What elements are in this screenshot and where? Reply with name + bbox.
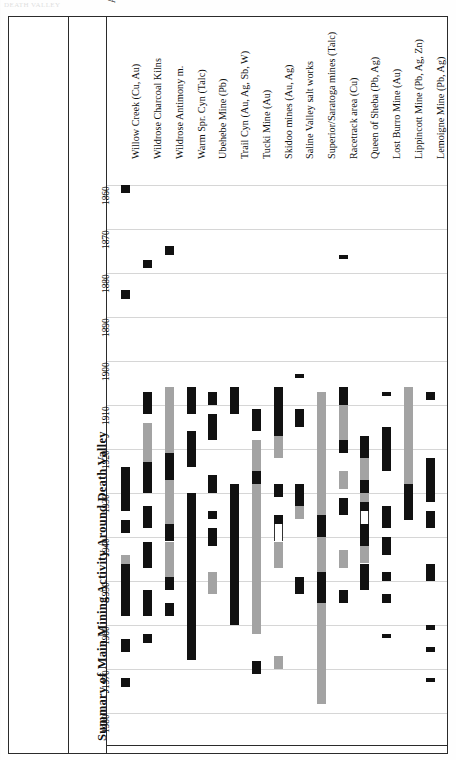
- activity-segment-spor: [252, 572, 261, 634]
- year-tick-1930: 1930: [101, 494, 111, 513]
- activity-segment-full: [121, 290, 130, 299]
- activity-segment-full: [143, 506, 152, 528]
- activity-segment-full: [187, 431, 196, 466]
- activity-segment-full: [121, 467, 130, 511]
- activity-segment-full: [143, 590, 152, 616]
- activity-segment-full: [230, 542, 239, 560]
- mine-label: Lost Burro Mine (Au): [392, 69, 402, 159]
- chart-panel: 1860187018801890190019101920193019401950…: [107, 17, 447, 753]
- activity-segment-full: [360, 564, 369, 590]
- activity-segment-spor: [165, 387, 174, 453]
- plot-area: 1860187018801890190019101920193019401950…: [107, 17, 447, 753]
- activity-segment-full: [295, 409, 304, 427]
- gridline-1860: [107, 185, 447, 186]
- activity-segment-spor: [252, 440, 261, 471]
- activity-segment-full: [360, 436, 369, 458]
- activity-segment-full: [208, 392, 217, 405]
- year-tick-1940: 1940: [101, 538, 111, 557]
- activity-segment-spor: [339, 550, 348, 568]
- activity-segment-full: [121, 639, 130, 652]
- activity-segment-disc: [208, 511, 217, 520]
- page-running-header: DEATH VALLEY: [4, 1, 334, 15]
- gridline-1950: [107, 581, 447, 582]
- gridline-1980: [107, 713, 447, 714]
- activity-segment-full: [121, 520, 130, 533]
- mine-label: Saline Valley salt works: [305, 61, 315, 159]
- key-panel: Key: DiscoveryAssessment workShut-down o…: [9, 17, 69, 753]
- activity-segment-spor: [317, 603, 326, 704]
- mine-label: Warm Spr. Cyn (Talc): [197, 69, 207, 159]
- mine-label: Superior/Saratoga mines (Talc): [327, 32, 337, 159]
- activity-segment-full: [339, 440, 348, 453]
- activity-segment-full: [143, 542, 152, 568]
- activity-segment-disc: [295, 374, 304, 378]
- activity-segment-spor: [208, 572, 217, 594]
- activity-segment-spor: [295, 506, 304, 519]
- activity-segment-full: [426, 511, 435, 529]
- page-root: DEATH VALLEY Key: DiscoveryAssessment wo…: [0, 0, 456, 760]
- abbreviation-row: Ag=SilverAu=GoldCu=CopperHg=MercuryPb=Le…: [107, 0, 117, 3]
- activity-segment-disc: [382, 392, 391, 396]
- activity-segment-spor: [274, 656, 283, 669]
- activity-segment-full: [208, 528, 217, 546]
- year-tick-1860: 1860: [101, 186, 111, 205]
- mine-label: Ubehebe Mine (Pb): [218, 79, 228, 159]
- activity-segment-full: [165, 246, 174, 255]
- mine-label: Tucki Mine (Au): [262, 90, 272, 159]
- activity-segment-full: [382, 594, 391, 603]
- mine-label: Skidoo mines (Au, Ag): [284, 64, 294, 159]
- year-tick-1980: 1980: [101, 715, 111, 734]
- mine-label: Lemoigne Mine (Pb, Ag): [436, 57, 446, 159]
- activity-segment-full: [382, 572, 391, 581]
- activity-segment-full: [339, 498, 348, 516]
- mine-label: Willow Creek (Cu, Au): [131, 64, 141, 159]
- activity-segment-full: [339, 590, 348, 603]
- activity-segment-full: [252, 661, 261, 674]
- activity-segment-full: [165, 577, 174, 590]
- activity-segment-full: [143, 634, 152, 643]
- activity-segment-full: [165, 603, 174, 616]
- year-tick-1950: 1950: [101, 582, 111, 601]
- activity-segment-full: [360, 524, 369, 546]
- activity-segment-full: [426, 564, 435, 582]
- activity-segment-full: [404, 484, 413, 519]
- activity-segment-full: [295, 577, 304, 595]
- mine-label: Racetrack area (Cu): [349, 78, 359, 159]
- activity-segment-full: [252, 471, 261, 484]
- year-tick-1960: 1960: [101, 627, 111, 646]
- year-tick-1890: 1890: [101, 318, 111, 337]
- activity-segment-full: [382, 634, 391, 638]
- year-tick-1880: 1880: [101, 274, 111, 293]
- year-tick-1870: 1870: [101, 230, 111, 249]
- activity-segment-spor: [339, 471, 348, 489]
- activity-segment-spor: [121, 555, 130, 564]
- activity-segment-full: [274, 387, 283, 436]
- activity-segment-full: [426, 647, 435, 651]
- activity-segment-spor: [252, 484, 261, 572]
- abbreviation-ag: Ag=Silver: [107, 0, 117, 3]
- gridline-1960: [107, 625, 447, 626]
- activity-segment-spor: [404, 387, 413, 484]
- time-axis-spine: [107, 745, 447, 746]
- mine-label: Queen of Sheba (Pb, Ag): [370, 57, 380, 159]
- activity-segment-full: [165, 453, 174, 479]
- gridline-1870: [107, 229, 447, 230]
- activity-segment-idle: [360, 511, 369, 524]
- activity-segment-full: [339, 387, 348, 405]
- activity-segment-spor: [360, 493, 369, 502]
- year-tick-1920: 1920: [101, 450, 111, 469]
- activity-segment-spor: [339, 405, 348, 440]
- year-tick-1910: 1910: [101, 406, 111, 425]
- activity-segment-full: [426, 678, 435, 682]
- activity-segment-full: [230, 559, 239, 625]
- activity-segment-full: [426, 625, 435, 629]
- activity-segment-full: [143, 260, 152, 269]
- activity-segment-full: [230, 506, 239, 541]
- activity-segment-full: [360, 480, 369, 493]
- gridline-1900: [107, 361, 447, 362]
- year-tick-1900: 1900: [101, 362, 111, 381]
- activity-segment-idle: [274, 524, 283, 542]
- activity-segment-full: [187, 493, 196, 660]
- gridline-1890: [107, 317, 447, 318]
- activity-segment-spor: [165, 542, 174, 577]
